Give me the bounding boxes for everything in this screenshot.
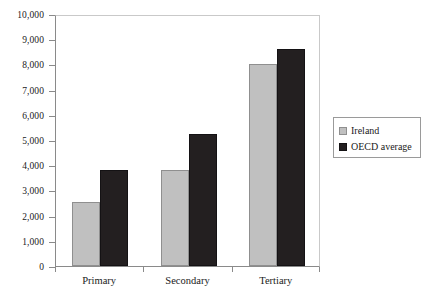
y-axis-tick-label: 8,000 <box>0 60 44 70</box>
x-axis-tick-label: Primary <box>55 274 143 287</box>
legend-item-ireland[interactable]: Ireland <box>339 123 420 138</box>
bar-chart: 10,0009,0008,0007,0006,0005,0004,0003,00… <box>0 0 427 300</box>
bar-primary-ireland <box>72 202 100 266</box>
y-axis-tick-label: 1,000 <box>0 237 44 247</box>
x-axis-tick-mark <box>319 267 320 272</box>
y-axis: 10,0009,0008,0007,0006,0005,0004,0003,00… <box>0 15 44 267</box>
y-axis-tick-label: 0 <box>0 262 44 272</box>
y-axis-tick-label: 7,000 <box>0 86 44 96</box>
legend-item-oecd-average[interactable]: OECD average <box>339 139 420 154</box>
legend-swatch-oecd-average-icon <box>339 143 347 151</box>
y-axis-tick-label: 4,000 <box>0 161 44 171</box>
legend-label-ireland: Ireland <box>351 125 379 137</box>
x-axis-tick-mark <box>232 267 233 272</box>
legend-swatch-ireland-icon <box>339 127 347 135</box>
bar-secondary-oecd-average <box>189 134 217 266</box>
legend: Ireland OECD average <box>333 117 421 158</box>
y-axis-tick-label: 5,000 <box>0 136 44 146</box>
x-axis-tick-mark <box>55 267 56 272</box>
legend-label-oecd-average: OECD average <box>351 141 412 153</box>
y-axis-tick-label: 3,000 <box>0 186 44 196</box>
bars-layer <box>56 16 319 266</box>
x-axis: PrimarySecondaryTertiary <box>55 274 320 290</box>
plot-area <box>55 15 320 267</box>
bar-tertiary-ireland <box>249 64 277 266</box>
y-axis-tick-label: 9,000 <box>0 35 44 45</box>
bar-secondary-ireland <box>161 170 189 266</box>
y-axis-tick-label: 6,000 <box>0 111 44 121</box>
bar-primary-oecd-average <box>100 170 128 266</box>
y-axis-tick-label: 10,000 <box>0 10 44 20</box>
bar-tertiary-oecd-average <box>277 49 305 266</box>
x-axis-tick-mark <box>143 267 144 272</box>
y-axis-tick-label: 2,000 <box>0 212 44 222</box>
x-axis-tick-marks <box>55 267 320 273</box>
x-axis-tick-label: Tertiary <box>232 274 320 287</box>
x-axis-tick-label: Secondary <box>143 274 231 287</box>
